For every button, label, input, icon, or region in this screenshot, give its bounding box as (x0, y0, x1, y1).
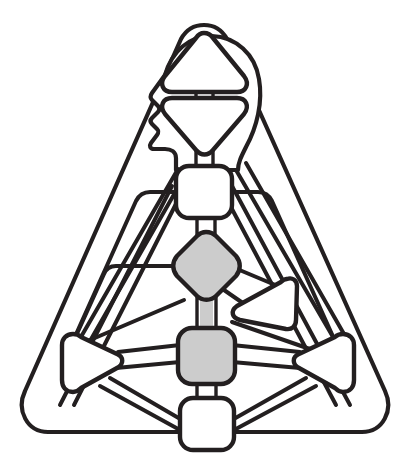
node-square-gray[interactable] (178, 328, 235, 384)
diagram-canvas (0, 0, 410, 473)
diagram-root: Rounded triangular network glyph with he… (0, 0, 410, 473)
node-square-upper[interactable] (176, 166, 232, 218)
node-square-bottom[interactable] (180, 398, 234, 450)
